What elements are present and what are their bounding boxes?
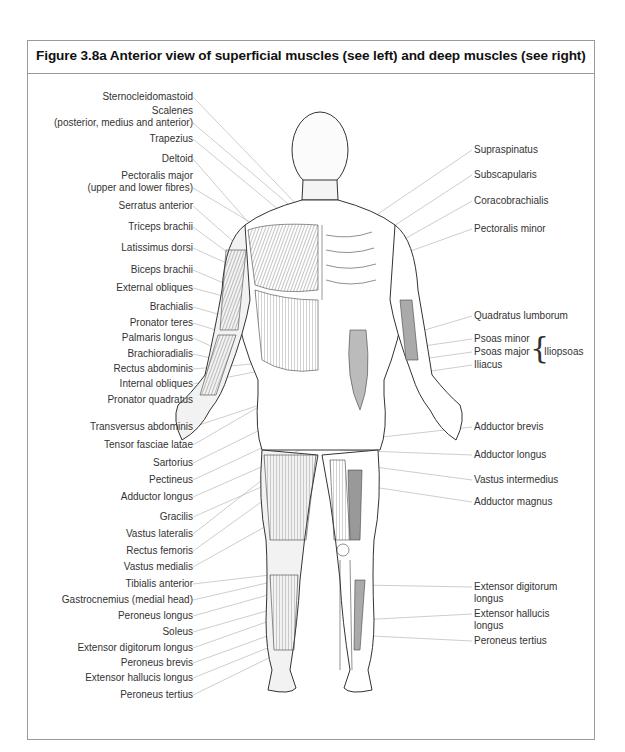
label-adductor-magnus: Adductor magnus: [474, 496, 552, 508]
label-peroneus-tertius-left: Peroneus tertius: [120, 689, 193, 701]
label-vastus-lateralis: Vastus lateralis: [126, 528, 193, 540]
label-scalenes: Scalenes: [152, 105, 193, 117]
label-extensor-digitorum-longus-right: Extensor digitorum: [474, 581, 557, 593]
label-brachioradialis: Brachioradialis: [127, 348, 193, 360]
label-rectus-femoris: Rectus femoris: [126, 545, 193, 557]
label-peroneus-brevis: Peroneus brevis: [121, 657, 193, 669]
label-rectus-abdominis: Rectus abdominis: [114, 363, 193, 375]
label-vastus-medialis: Vastus medialis: [124, 561, 193, 573]
label-iliopsoas: Iliopsoas: [544, 346, 583, 358]
label-gastrocnemius: Gastrocnemius (medial head): [62, 594, 193, 606]
label-tibialis-anterior: Tibialis anterior: [126, 578, 193, 590]
label-biceps-brachii: Biceps brachii: [131, 264, 193, 276]
label-extensor-hallucis-longus-left: Extensor hallucis longus: [85, 672, 193, 684]
label-serratus-anterior: Serratus anterior: [119, 200, 193, 212]
label-pronator-teres: Pronator teres: [130, 317, 193, 329]
label-peroneus-longus: Peroneus longus: [118, 610, 193, 622]
label-sternocleidomastoid: Sternocleidomastoid: [102, 91, 193, 103]
label-iliacus: Iliacus: [474, 359, 502, 371]
label-gracilis: Gracilis: [160, 511, 193, 523]
label-sartorius: Sartorius: [153, 457, 193, 469]
label-external-obliques: External obliques: [116, 282, 193, 294]
label-vastus-intermedius: Vastus intermedius: [474, 474, 558, 486]
label-psoas-major: Psoas major: [474, 346, 530, 358]
label-deltoid: Deltoid: [162, 153, 193, 165]
label-internal-obliques: Internal obliques: [120, 378, 193, 390]
label-adductor-longus-left: Adductor longus: [121, 491, 193, 503]
label-extensor-hallucis-longus-right-cont: longus: [474, 620, 503, 632]
label-supraspinatus: Supraspinatus: [474, 144, 538, 156]
label-pronator-quadratus: Pronator quadratus: [107, 394, 193, 406]
label-pectoralis-major: Pectoralis major: [121, 170, 193, 182]
label-pectoralis-major-detail: (upper and lower fibres): [87, 182, 193, 194]
label-trapezius: Trapezius: [149, 133, 193, 145]
label-extensor-digitorum-longus-left: Extensor digitorum longus: [77, 642, 193, 654]
label-subscapularis: Subscapularis: [474, 169, 537, 181]
label-scalenes-detail: (posterior, medius and anterior): [54, 117, 193, 129]
body-outline: [176, 112, 463, 692]
label-adductor-brevis: Adductor brevis: [474, 421, 543, 433]
label-pectoralis-minor: Pectoralis minor: [474, 223, 546, 235]
label-peroneus-tertius-right: Peroneus tertius: [474, 635, 547, 647]
label-palmaris-longus: Palmaris longus: [122, 332, 193, 344]
label-coracobrachialis: Coracobrachialis: [474, 195, 548, 207]
label-quadratus-lumborum: Quadratus lumborum: [474, 310, 568, 322]
label-adductor-longus-right: Adductor longus: [474, 449, 546, 461]
label-extensor-hallucis-longus-right: Extensor hallucis: [474, 608, 550, 620]
label-tensor-fasciae-latae: Tensor fasciae latae: [104, 439, 193, 451]
label-pectineus: Pectineus: [149, 474, 193, 486]
label-latissimus-dorsi: Latissimus dorsi: [121, 242, 193, 254]
label-triceps-brachii: Triceps brachii: [128, 221, 193, 233]
label-extensor-digitorum-longus-right-cont: longus: [474, 593, 503, 605]
label-soleus: Soleus: [162, 626, 193, 638]
label-psoas-minor: Psoas minor: [474, 333, 530, 345]
label-brachialis: Brachialis: [150, 301, 193, 313]
label-transversus-abdominis: Transversus abdominis: [90, 421, 193, 433]
